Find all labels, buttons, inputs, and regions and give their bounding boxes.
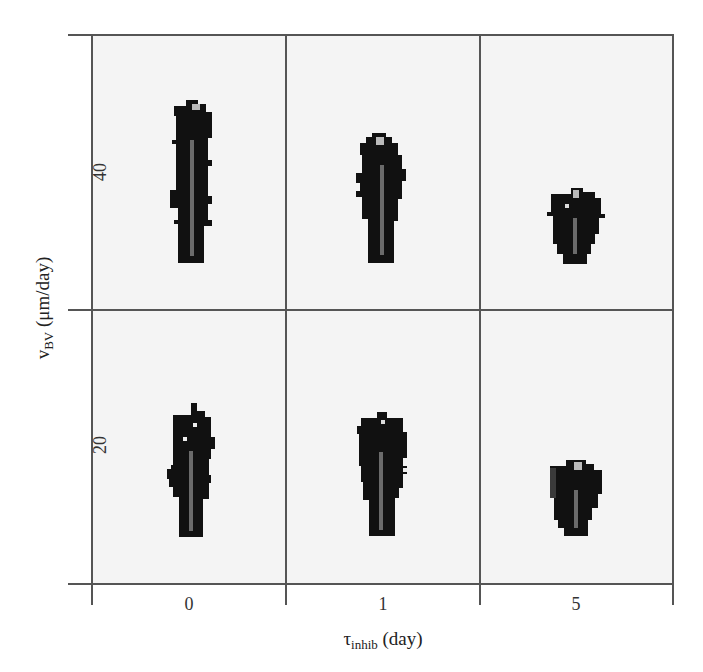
- grid-col2: [479, 34, 481, 605]
- x-tick-1: 1: [379, 594, 388, 615]
- cell-tau1-v40: [356, 133, 414, 266]
- cell-tau0-v40: [170, 100, 216, 266]
- x-tick-5: 5: [572, 594, 581, 615]
- cell-tau1-v20: [355, 412, 413, 540]
- x-axis-label: τinhib (day): [343, 628, 422, 653]
- grid-top: [68, 34, 674, 36]
- y-tick-40: 40: [90, 163, 111, 181]
- cell-tau5-v40: [545, 188, 609, 268]
- grid-left: [91, 34, 93, 605]
- grid-col1: [285, 34, 287, 605]
- cell-tau5-v20: [546, 460, 610, 540]
- y-tick-20: 20: [90, 436, 111, 454]
- y-axis-label: vBV (μm/day): [32, 257, 57, 360]
- grid-bottom: [68, 583, 674, 585]
- cell-tau0-v20: [165, 403, 223, 539]
- x-tick-0: 0: [185, 594, 194, 615]
- grid-right: [672, 34, 674, 605]
- grid-middle: [68, 309, 674, 311]
